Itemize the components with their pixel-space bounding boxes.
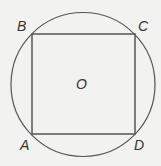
label-b: B <box>17 18 26 34</box>
label-d: D <box>134 137 144 153</box>
label-c: C <box>138 18 149 34</box>
diagram: B C A D O <box>0 0 161 166</box>
label-o: O <box>76 76 87 92</box>
label-a: A <box>19 137 29 153</box>
